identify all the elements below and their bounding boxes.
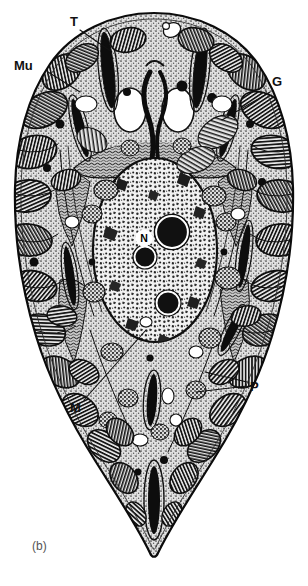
dense-body bbox=[30, 258, 39, 267]
cell-cross-section-illustration: T Mu G N M P (b) bbox=[0, 0, 308, 586]
paraglycogen-granule bbox=[83, 282, 105, 302]
paraglycogen-granule bbox=[186, 381, 206, 399]
paraglycogen-granule bbox=[199, 328, 221, 348]
dense-body bbox=[146, 354, 153, 361]
dense-body bbox=[89, 259, 96, 266]
paraglycogen-granule bbox=[215, 267, 241, 289]
figure-caption: (b) bbox=[32, 539, 47, 553]
paraglycogen-granule bbox=[101, 343, 123, 361]
dense-body bbox=[123, 88, 131, 96]
paraglycogen-granule bbox=[151, 424, 169, 440]
dense-body bbox=[177, 81, 188, 92]
nucleolus-large bbox=[156, 216, 188, 248]
paraglycogen-granule bbox=[94, 180, 118, 200]
paraglycogen-granule bbox=[121, 140, 139, 156]
label-t: T bbox=[70, 14, 78, 29]
paraglycogen-granule bbox=[202, 186, 226, 206]
label-p: P bbox=[250, 379, 259, 394]
label-n: N bbox=[140, 232, 148, 244]
paraglycogen-granule bbox=[173, 138, 191, 154]
paraglycogen-granule bbox=[118, 389, 138, 407]
label-mu: Mu bbox=[14, 58, 33, 73]
clear-vacuole bbox=[65, 216, 79, 228]
cell-body bbox=[0, 0, 308, 586]
clear-vacuole bbox=[162, 388, 174, 404]
nucleolus-lower bbox=[157, 292, 180, 315]
clear-vacuole bbox=[140, 317, 152, 327]
clear-vacuole bbox=[231, 208, 245, 220]
paraglycogen-granule bbox=[82, 205, 102, 223]
clear-vacuole bbox=[132, 434, 148, 446]
clear-vacuole bbox=[75, 96, 97, 112]
figure-panel: T Mu G N M P (b) bbox=[0, 0, 308, 586]
clear-vacuole bbox=[189, 346, 203, 358]
free-vesicle-lobe bbox=[163, 23, 170, 30]
dense-body bbox=[160, 456, 168, 464]
nucleolus-small bbox=[135, 247, 156, 268]
label-g: G bbox=[272, 74, 282, 89]
label-m: M bbox=[70, 400, 81, 415]
trichocyst bbox=[148, 466, 160, 534]
dense-body bbox=[221, 249, 228, 256]
clear-vacuole bbox=[212, 96, 232, 112]
